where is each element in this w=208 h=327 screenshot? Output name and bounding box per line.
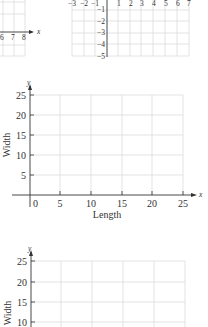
x-tick-3: 3: [140, 0, 144, 8]
y-tick-15: 15: [16, 130, 26, 141]
x-tick-20: 20: [147, 198, 157, 209]
y-axis-label: Width: [1, 133, 12, 158]
y-tick-neg5: −5: [97, 52, 105, 61]
tick-marks: [30, 95, 183, 195]
x-tick-10: 10: [86, 198, 96, 209]
x-tick-4: 4: [152, 0, 156, 8]
x-tick-2: 2: [129, 0, 133, 8]
grid-lines: [30, 95, 183, 195]
y-axis-var: y: [27, 245, 32, 253]
x-tick-15: 15: [117, 198, 127, 209]
x-axis-var: x: [36, 27, 41, 36]
y-tick-20: 20: [17, 277, 27, 288]
y-tick-20: 20: [16, 110, 26, 121]
x-tick-25: 25: [178, 198, 188, 209]
y-axis-label: Width: [2, 301, 13, 326]
y-tick-neg3: −3: [97, 28, 105, 37]
x-tick-6: 6: [0, 33, 4, 42]
y-tick-neg1: −1: [97, 5, 105, 14]
x-tick-neg2: −2: [80, 0, 88, 8]
x-tick-5: 5: [58, 198, 63, 209]
x-axis-var: x: [198, 190, 203, 199]
x-axis-arrow-icon: [191, 193, 197, 197]
x-tick-6: 6: [176, 0, 180, 8]
x-tick-1: 1: [117, 0, 121, 8]
x-axis-label: Length: [93, 209, 121, 220]
y-tick-10: 10: [16, 150, 26, 161]
y-tick-10: 10: [17, 317, 27, 327]
chart-partial-top-right: −3 −2 −1 1 2 3 4 5 6 7 −1 −2 −3 −4 −5: [68, 0, 208, 62]
chart-width-partial-bottom: y 25 20 15 10 Width: [0, 245, 208, 327]
x-tick-7: 7: [187, 0, 191, 8]
y-axis-var: y: [26, 80, 31, 87]
x-axis-arrow-icon: [29, 30, 34, 34]
chart-length-width: y x 25 20 15 10 5 0 5 10 15 20 25 Length…: [0, 80, 208, 220]
x-tick-0: 0: [33, 198, 38, 209]
x-tick-neg3: −3: [68, 0, 76, 8]
y-tick-25: 25: [17, 256, 27, 267]
y-tick-15: 15: [17, 297, 27, 308]
grid-lines: [31, 261, 185, 327]
grid-lines: [0, 0, 25, 56]
grid-lines: [72, 0, 189, 56]
y-tick-neg4: −4: [97, 40, 105, 49]
y-tick-25: 25: [16, 90, 26, 101]
x-tick-8: 8: [22, 33, 26, 42]
y-tick-neg2: −2: [97, 17, 105, 26]
x-tick-7: 7: [11, 33, 15, 42]
tick-marks: [31, 261, 35, 322]
y-tick-5: 5: [21, 170, 26, 181]
chart-partial-top-left: x 6 7 8: [0, 0, 45, 60]
x-tick-5: 5: [164, 0, 168, 8]
